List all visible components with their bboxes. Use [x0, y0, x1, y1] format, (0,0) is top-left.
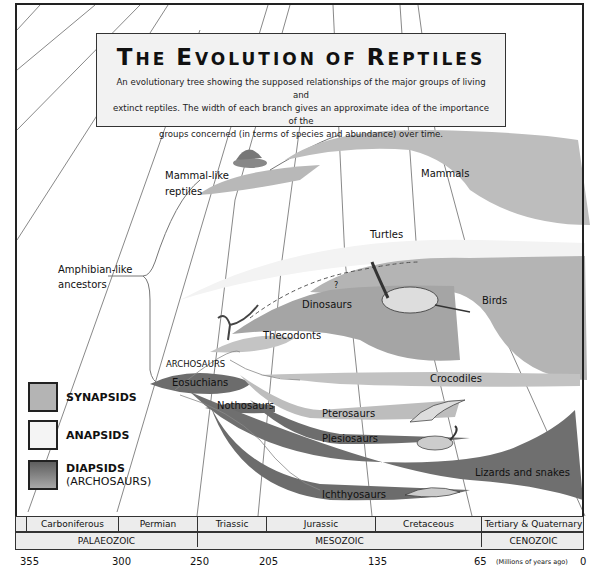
period-cretaceous: Cretaceous — [375, 517, 481, 531]
label-eosuchians: Eosuchians — [172, 377, 228, 388]
synapsids-swatch — [28, 382, 58, 412]
title-box: THE EVOLUTION OF REPTILES An evolutionar… — [96, 33, 506, 127]
geologic-timescale: Carboniferous Permian Triassic Jurassic … — [15, 516, 584, 549]
tick-135: 135 — [368, 556, 387, 567]
period-carboniferous: Carboniferous — [26, 517, 118, 531]
diapsids-swatch — [28, 460, 58, 490]
label-amphibian-ancestors: Amphibian-like ancestors — [58, 262, 132, 292]
legend-diapsids: DIAPSIDS (ARCHOSAURS) — [28, 460, 151, 490]
periods-row: Carboniferous Permian Triassic Jurassic … — [15, 516, 584, 532]
tick-355: 355 — [20, 556, 39, 567]
reptile-evolution-diagram: THE EVOLUTION OF REPTILES An evolutionar… — [0, 0, 603, 579]
period-triassic: Triassic — [197, 517, 266, 531]
label-mammal-like-reptiles: Mammal-like reptiles — [165, 168, 229, 200]
description: An evolutionary tree showing the suppose… — [109, 76, 493, 141]
label-plesiosaurs: Plesiosaurs — [322, 433, 378, 444]
label-archosaurs: ARCHOSAURS — [166, 359, 225, 369]
time-unit-label: (Millions of years ago) — [496, 558, 568, 566]
label-thecodonts: Thecodonts — [263, 330, 321, 341]
label-dinosaurs: Dinosaurs — [302, 299, 352, 310]
tick-0: 0 — [580, 556, 586, 567]
label-turtles: Turtles — [370, 229, 403, 240]
legend-synapsids: SYNAPSIDS — [28, 382, 137, 412]
era-palaeozoic: PALAEOZOIC — [16, 533, 197, 547]
tick-300: 300 — [112, 556, 131, 567]
label-pterosaurs: Pterosaurs — [322, 408, 375, 419]
legend-anapsids: ANAPSIDS — [28, 420, 129, 450]
period-tertiary-quaternary: Tertiary & Quaternary — [481, 517, 585, 531]
period-permian: Permian — [118, 517, 197, 531]
anapsids-swatch — [28, 420, 58, 450]
label-crocodiles: Crocodiles — [430, 373, 482, 384]
eras-row: PALAEOZOIC MESOZOIC CENOZOIC — [15, 532, 584, 550]
page-title: THE EVOLUTION OF REPTILES — [97, 44, 505, 70]
label-mammals: Mammals — [421, 168, 469, 179]
era-cenozoic: CENOZOIC — [481, 533, 585, 547]
label-ichthyosaurs: Ichthyosaurs — [322, 489, 386, 500]
tick-250: 250 — [190, 556, 209, 567]
era-mesozoic: MESOZOIC — [197, 533, 481, 547]
label-birds: Birds — [482, 295, 507, 306]
tick-205: 205 — [259, 556, 278, 567]
period-jurassic: Jurassic — [266, 517, 375, 531]
label-nothosaurs: Nothosaurs — [217, 400, 274, 411]
tick-65: 65 — [474, 556, 487, 567]
label-lizards-snakes: Lizards and snakes — [475, 467, 570, 478]
label-question: ? — [334, 281, 338, 290]
